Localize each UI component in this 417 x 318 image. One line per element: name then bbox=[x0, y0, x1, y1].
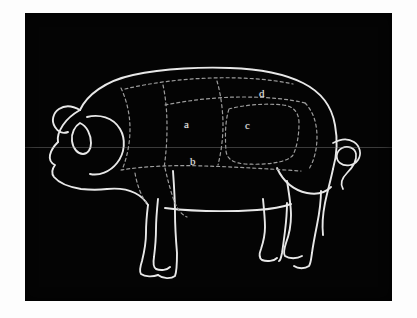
cut-line-b-front bbox=[135, 173, 146, 203]
rear-leg-outline bbox=[279, 203, 287, 261]
image-root: a b c d bbox=[0, 0, 417, 318]
cut-line-d-lower bbox=[165, 97, 305, 105]
cut-label-d: d bbox=[259, 88, 265, 99]
cut-line-loin-top bbox=[125, 78, 293, 89]
cut-line-a-rear bbox=[217, 81, 223, 165]
chest-outline bbox=[107, 189, 148, 205]
pig-body-outline bbox=[50, 68, 337, 278]
eye-outline bbox=[72, 123, 91, 154]
cut-line-d-rear bbox=[305, 103, 317, 169]
jowl-outline bbox=[87, 116, 124, 175]
cut-line-shoulder bbox=[121, 88, 130, 170]
snout-outline bbox=[50, 142, 107, 190]
cut-label-b: b bbox=[190, 156, 196, 167]
front-leg-outline bbox=[158, 171, 177, 278]
cut-line-c-box bbox=[225, 104, 299, 164]
cut-line-a-front bbox=[163, 85, 167, 168]
cut-line-b-top bbox=[121, 166, 301, 171]
rear-leg-outline bbox=[294, 191, 321, 268]
hindquarter-line bbox=[277, 168, 331, 194]
scan-line-artifact bbox=[25, 147, 392, 148]
cut-label-c: c bbox=[245, 120, 250, 131]
belly-line bbox=[165, 204, 291, 211]
front-leg-outline bbox=[153, 199, 170, 270]
pig-diagram-svg bbox=[25, 13, 392, 301]
back-outline bbox=[80, 68, 337, 169]
cut-label-a: a bbox=[184, 119, 189, 130]
rump-outline bbox=[323, 169, 333, 235]
figure-panel: a b c d bbox=[25, 13, 392, 301]
